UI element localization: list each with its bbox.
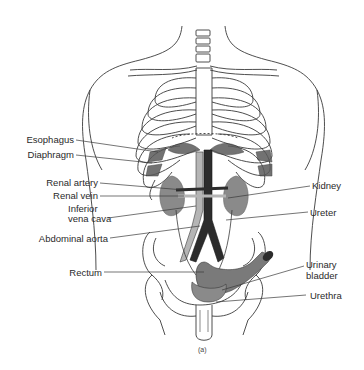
label-diaphragm: Diaphragm	[28, 149, 74, 160]
label-rectum: Rectum	[69, 267, 102, 278]
label-urinary-bladder-line2: bladder	[306, 270, 338, 281]
label-abdominal-aorta: Abdominal aorta	[39, 233, 108, 244]
label-urinary-bladder-line1: Urinary	[306, 259, 337, 270]
anatomy-diagram: Esophagus Diaphragm Renal artery Renal v…	[0, 0, 364, 370]
label-renal-artery: Renal artery	[46, 177, 98, 188]
figure-caption: (a)	[198, 346, 207, 353]
label-ureter: Ureter	[310, 207, 336, 218]
label-renal-vein: Renal vein	[53, 190, 98, 201]
clavicle-left	[130, 66, 197, 70]
external-genitalia	[196, 305, 212, 340]
label-urethra: Urethra	[310, 290, 342, 301]
sternum	[196, 68, 212, 135]
label-inferior-vena-cava-line2: vena cava	[68, 213, 111, 224]
cervical-spine	[196, 30, 210, 62]
label-kidney: Kidney	[312, 180, 341, 191]
rectum	[196, 252, 272, 294]
great-vessels	[176, 150, 232, 275]
label-esophagus: Esophagus	[26, 134, 74, 145]
clavicle-right	[210, 66, 277, 70]
ureter-left	[176, 210, 196, 275]
